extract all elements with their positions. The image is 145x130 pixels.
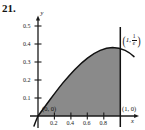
fraction-denominator: e [132,41,135,47]
figure-container: 21. 0.1 0.2 0. [0,0,145,130]
y-tick-label-4: 0.5 [23,23,31,29]
y-axis-label: y [41,10,44,17]
annotation-x-value: 1, [126,37,131,44]
x-tick-label-2: 0.6 [83,120,91,126]
point-label-one-over-e: ( 1, 1 e ) [122,34,142,47]
x-axis-label: x [131,118,134,125]
annotation-close-paren: ) [138,34,141,47]
y-tick-label-1: 0.2 [23,77,31,83]
point-label-right: (1, 0) [122,106,136,113]
y-tick-label-2: 0.3 [23,59,31,65]
annotation-open-paren: ( [122,34,125,47]
annotation-fraction: 1 e [132,34,137,47]
y-tick-label-0: 0.1 [23,95,31,101]
x-tick-label-0: 0.2 [50,120,58,126]
point-label-origin: (0, 0) [42,106,56,113]
fraction-numerator: 1 [132,34,136,40]
y-axis-arrow-icon [36,16,40,21]
x-tick-label-1: 0.4 [67,120,75,126]
x-axis-arrow-icon [134,114,139,118]
x-tick-label-3: 0.8 [100,120,108,126]
y-tick-label-3: 0.4 [23,41,31,47]
